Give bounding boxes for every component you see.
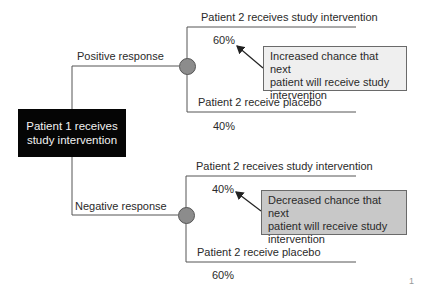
outcome-label-negative-intervention: Patient 2 receives study intervention — [196, 160, 373, 173]
probability-negative-intervention: 40% — [212, 183, 234, 196]
branch-label-positive: Positive response — [77, 50, 164, 63]
page-mark: 1 — [409, 276, 414, 286]
root-label-line2: study intervention — [26, 133, 117, 147]
root-label-line1: Patient 1 receives — [26, 119, 117, 133]
chance-node-negative — [178, 207, 195, 224]
probability-positive-intervention: 60% — [213, 34, 235, 47]
branch-label-negative: Negative response — [75, 200, 167, 213]
callout-positive-line3: intervention — [270, 89, 400, 102]
probability-negative-placebo: 60% — [212, 269, 234, 282]
callout-decreased-chance: Decreased chance that next patient will … — [261, 190, 407, 235]
outcome-label-positive-intervention: Patient 2 receives study intervention — [201, 11, 378, 24]
callout-negative-line2: patient will receive study — [268, 220, 400, 233]
callout-positive-line1: Increased chance that next — [270, 50, 400, 76]
outcome-label-negative-placebo: Patient 2 receive placebo — [197, 246, 321, 259]
callout-negative-line3: intervention — [268, 233, 400, 246]
callout-negative-line1: Decreased chance that next — [268, 194, 400, 220]
probability-positive-placebo: 40% — [213, 120, 235, 133]
chance-node-positive — [179, 58, 196, 75]
callout-positive-line2: patient will receive study — [270, 76, 400, 89]
callout-increased-chance: Increased chance that next patient will … — [263, 46, 407, 91]
root-node-patient-1: Patient 1 receives study intervention — [18, 109, 126, 157]
